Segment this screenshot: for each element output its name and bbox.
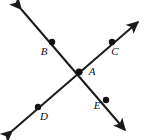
- point-label-b: B: [41, 45, 48, 57]
- line-b-a-e: [21, 9, 125, 130]
- geometry-canvas: B C A D E: [0, 0, 150, 140]
- line-d-a-c: [12, 22, 138, 131]
- point-label-e: E: [93, 99, 101, 111]
- geometry-figure: B C A D E: [0, 0, 150, 140]
- point-label-c: C: [111, 45, 119, 57]
- point-dot-e: [103, 97, 109, 103]
- point-label-d: D: [39, 110, 48, 122]
- point-dot-a: [75, 68, 82, 75]
- point-dot-b: [49, 39, 55, 45]
- point-label-a: A: [88, 65, 96, 77]
